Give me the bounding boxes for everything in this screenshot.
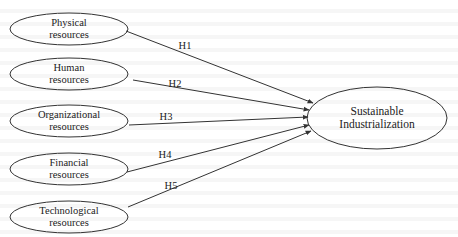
- node-organizational-resources: Organizational resources: [38, 109, 100, 133]
- arrow-h5: [128, 131, 311, 207]
- node-label-line2: resources: [49, 169, 89, 181]
- arrow-h3: [129, 117, 308, 125]
- arrow-h4: [127, 125, 309, 172]
- hypothesis-label-h5: H5: [165, 180, 178, 191]
- hypothesis-label-h1: H1: [179, 40, 192, 51]
- node-label-line2: resources: [49, 29, 89, 41]
- node-label-line1: Physical: [49, 17, 89, 29]
- node-label-line1: Technological: [39, 205, 98, 217]
- arrow-h1: [126, 31, 313, 103]
- node-human-resources: Human resources: [49, 62, 89, 86]
- arrow-h2: [133, 80, 309, 110]
- node-label-line1: Financial: [49, 157, 89, 169]
- node-physical-resources: Physical resources: [49, 17, 89, 41]
- node-label-line1: Sustainable: [339, 105, 414, 118]
- hypothesis-label-h4: H4: [159, 149, 172, 160]
- node-financial-resources: Financial resources: [49, 157, 89, 181]
- node-label-line2: resources: [39, 217, 98, 229]
- hypothesis-label-h2: H2: [169, 78, 182, 89]
- node-label-line1: Human: [49, 62, 89, 74]
- node-label-line2: resources: [38, 121, 100, 133]
- node-label-line1: Organizational: [38, 109, 100, 121]
- hypothesis-paths: [126, 31, 313, 207]
- hypothesis-label-h3: H3: [160, 111, 173, 122]
- node-technological-resources: Technological resources: [39, 205, 98, 229]
- node-sustainable-industrialization: Sustainable Industrialization: [339, 105, 414, 131]
- node-label-line2: resources: [49, 74, 89, 86]
- node-label-line2: Industrialization: [339, 118, 414, 131]
